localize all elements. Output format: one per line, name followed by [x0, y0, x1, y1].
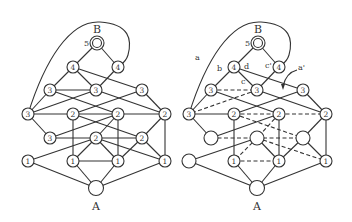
node: 2 [67, 108, 79, 120]
node: 4 [228, 61, 240, 73]
node [250, 131, 264, 145]
edge-label-a: a [195, 53, 200, 62]
svg-text:2: 2 [116, 110, 121, 119]
svg-text:3: 3 [255, 86, 260, 95]
svg-text:2: 2 [277, 110, 282, 119]
node: 3 [22, 108, 34, 120]
node: 4 [67, 61, 79, 73]
node-sink-a [250, 181, 265, 196]
node: 3 [251, 84, 263, 96]
svg-text:1: 1 [232, 157, 237, 166]
edge-label-c: c [241, 77, 246, 86]
edge-label-a-prime: a' [298, 63, 305, 72]
source-label: B [254, 23, 262, 36]
node-source-b [90, 36, 104, 50]
source-number: 5 [245, 39, 250, 48]
arrow-icon [281, 84, 285, 90]
sink-label: A [252, 200, 262, 213]
node: 2 [228, 108, 240, 120]
node: 4 [112, 61, 124, 73]
sink-label: A [91, 200, 101, 213]
node: 1 [22, 155, 34, 167]
node: 4 [273, 61, 285, 73]
svg-text:3: 3 [209, 86, 214, 95]
left-graph: 5 B 4 4 3 3 3 3 2 2 2 3 2 2 1 1 1 1 A [22, 22, 171, 213]
svg-text:1: 1 [71, 157, 76, 166]
node: 3 [297, 84, 309, 96]
node: 2 [273, 108, 285, 120]
edge-label-d: d [244, 62, 249, 71]
svg-text:4: 4 [232, 63, 237, 72]
svg-text:2: 2 [232, 110, 237, 119]
svg-text:2: 2 [140, 134, 145, 143]
node: 3 [183, 108, 195, 120]
svg-text:1: 1 [277, 157, 282, 166]
node [296, 131, 310, 145]
node [182, 154, 196, 168]
svg-text:3: 3 [48, 86, 53, 95]
node: 3 [44, 132, 56, 144]
svg-text:2: 2 [324, 110, 329, 119]
svg-text:1: 1 [26, 157, 31, 166]
node: 2 [90, 132, 102, 144]
svg-text:3: 3 [26, 110, 31, 119]
svg-text:3: 3 [48, 134, 53, 143]
svg-text:3: 3 [187, 110, 192, 119]
svg-text:4: 4 [71, 63, 76, 72]
source-label: B [93, 23, 101, 36]
node-source-b [251, 36, 265, 50]
node: 1 [159, 155, 171, 167]
source-number: 5 [84, 39, 89, 48]
svg-text:2: 2 [71, 110, 76, 119]
graph-figure: 5 B 4 4 3 3 3 3 2 2 2 3 2 2 1 1 1 1 A [0, 0, 352, 222]
node: 3 [44, 84, 56, 96]
node-sink-a [89, 181, 104, 196]
svg-text:4: 4 [116, 63, 121, 72]
svg-text:3: 3 [140, 86, 145, 95]
svg-text:2: 2 [163, 110, 168, 119]
node: 1 [112, 155, 124, 167]
node: 1 [67, 155, 79, 167]
node: 1 [228, 155, 240, 167]
node: 2 [320, 108, 332, 120]
edge-label-b: b [217, 64, 222, 73]
svg-text:1: 1 [116, 157, 121, 166]
svg-text:4: 4 [277, 63, 282, 72]
node: 2 [159, 108, 171, 120]
svg-text:1: 1 [324, 157, 329, 166]
node: 2 [136, 132, 148, 144]
edge-label-c-prime: c' [265, 61, 272, 70]
node: 1 [273, 155, 285, 167]
node: 3 [205, 84, 217, 96]
svg-text:3: 3 [301, 86, 306, 95]
right-graph: a b d c' c a' 5 B 4 4 3 3 3 3 2 2 2 1 1 … [182, 22, 332, 213]
node: 3 [136, 84, 148, 96]
node [204, 131, 218, 145]
svg-text:3: 3 [94, 86, 99, 95]
node: 1 [320, 155, 332, 167]
node: 3 [90, 84, 102, 96]
svg-text:1: 1 [163, 157, 168, 166]
node: 2 [112, 108, 124, 120]
svg-text:2: 2 [94, 134, 99, 143]
